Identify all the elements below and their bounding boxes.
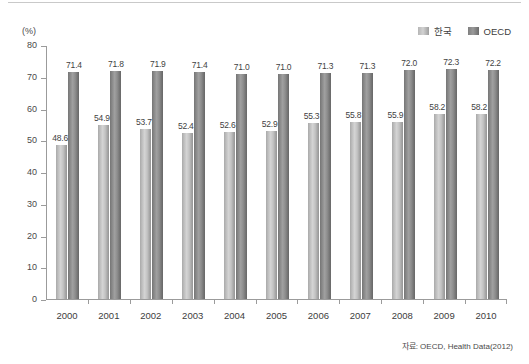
bar-korea: 58.2	[476, 114, 487, 299]
bar-korea: 55.9	[392, 122, 403, 299]
y-axis-tick-label: 40	[27, 167, 37, 177]
x-axis-tick-mark	[297, 300, 298, 304]
bar-value-label: 52.6	[220, 120, 236, 130]
y-axis-unit-label: (%)	[22, 26, 36, 36]
y-axis-tick-mark	[41, 205, 46, 206]
bar-oecd: 71.0	[278, 74, 289, 299]
bar-korea: 53.7	[140, 129, 151, 299]
bar-value-label: 71.4	[66, 60, 82, 70]
top-divider	[8, 2, 521, 3]
y-axis-tick-label: 50	[27, 135, 37, 145]
bar-value-label: 52.4	[178, 121, 194, 131]
bar-korea: 58.2	[434, 114, 445, 299]
bar-value-label: 53.7	[136, 117, 152, 127]
bar-oecd: 72.0	[404, 70, 415, 299]
bar-korea: 52.6	[224, 132, 235, 299]
bar-korea: 55.3	[308, 123, 319, 299]
y-axis-tick-mark	[41, 110, 46, 111]
x-axis-tick-mark	[172, 300, 173, 304]
x-axis-tick-label: 2010	[475, 310, 496, 321]
legend-item-oecd: OECD	[468, 26, 511, 37]
x-axis-line	[46, 299, 507, 300]
bar-oecd: 71.4	[68, 72, 79, 299]
x-axis-tick-mark	[130, 300, 131, 304]
bar-value-label: 71.0	[234, 62, 250, 72]
bar-oecd: 71.8	[110, 71, 121, 299]
bar-group: 54.971.8	[98, 46, 121, 299]
bar-korea: 52.4	[182, 133, 193, 299]
x-axis-tick-mark	[423, 300, 424, 304]
x-axis-tick-mark	[465, 300, 466, 304]
x-axis-tick-label: 2000	[56, 310, 77, 321]
bar-value-label: 72.2	[485, 58, 501, 68]
x-axis-tick-label: 2003	[182, 310, 203, 321]
y-axis-tick-label: 20	[27, 231, 37, 241]
bar-oecd: 72.3	[446, 69, 457, 299]
bar-value-label: 71.4	[192, 60, 208, 70]
y-axis-tick-mark	[41, 46, 46, 47]
bar-oecd: 71.9	[152, 71, 163, 299]
bar-value-label: 72.0	[401, 58, 417, 68]
bar-korea: 48.6	[56, 145, 67, 299]
x-axis-tick-label: 2002	[140, 310, 161, 321]
bar-oecd: 71.0	[236, 74, 247, 299]
bar-oecd: 72.2	[488, 70, 499, 299]
bar-value-label: 71.9	[150, 59, 166, 69]
y-axis-tick-mark	[41, 78, 46, 79]
bar-korea: 54.9	[98, 125, 109, 299]
bar-value-label: 54.9	[94, 113, 110, 123]
bar-value-label: 48.6	[52, 133, 68, 143]
bar-group: 58.272.2	[476, 46, 499, 299]
bar-korea: 52.9	[266, 131, 277, 299]
y-axis-tick-label: 80	[27, 40, 37, 50]
y-axis-tick-label: 30	[27, 199, 37, 209]
bar-value-label: 71.3	[318, 61, 334, 71]
x-axis-tick-mark	[88, 300, 89, 304]
x-axis-tick-label: 2009	[434, 310, 455, 321]
bar-oecd: 71.3	[320, 73, 331, 299]
y-axis-tick-label: 70	[27, 72, 37, 82]
bar-group: 52.971.0	[266, 46, 289, 299]
x-axis-tick-label: 2004	[224, 310, 245, 321]
legend-swatch-oecd-icon	[468, 27, 479, 35]
bar-group: 55.871.3	[350, 46, 373, 299]
source-note: 자료: OECD, Health Data(2012)	[402, 340, 513, 351]
bar-value-label: 71.3	[359, 61, 375, 71]
bar-oecd: 71.4	[194, 72, 205, 299]
y-axis-tick-mark	[41, 300, 46, 301]
x-axis-tick-label: 2001	[98, 310, 119, 321]
bar-groups: 48.671.454.971.853.771.952.471.452.671.0…	[47, 46, 507, 299]
y-axis-tick-label: 10	[27, 262, 37, 272]
legend-item-korea: 한국	[418, 24, 452, 38]
bar-oecd: 71.3	[362, 73, 373, 299]
x-axis-tick-mark	[256, 300, 257, 304]
bar-value-label: 72.3	[443, 57, 459, 67]
x-axis-tick-mark	[381, 300, 382, 304]
bar-korea: 55.8	[350, 122, 361, 299]
bar-value-label: 52.9	[262, 119, 278, 129]
bar-group: 48.671.4	[56, 46, 79, 299]
bar-value-label: 55.3	[304, 111, 320, 121]
legend-swatch-korea-icon	[418, 27, 429, 35]
bar-group: 55.972.0	[392, 46, 415, 299]
x-axis-tick-label: 2007	[350, 310, 371, 321]
x-axis-tick-label: 2005	[266, 310, 287, 321]
bar-group: 52.671.0	[224, 46, 247, 299]
bar-value-label: 58.2	[429, 102, 445, 112]
x-axis-tick-mark	[339, 300, 340, 304]
x-axis-tick-label: 2008	[392, 310, 413, 321]
bar-value-label: 71.0	[276, 62, 292, 72]
chart-figure: (%) 한국 OECD 01020304050607080 48.671.454…	[0, 0, 529, 364]
bar-value-label: 58.2	[471, 102, 487, 112]
y-axis-tick-mark	[41, 268, 46, 269]
y-axis-tick-mark	[41, 173, 46, 174]
bar-group: 55.371.3	[308, 46, 331, 299]
chart-legend: 한국 OECD	[418, 24, 511, 38]
plot-area: 01020304050607080 48.671.454.971.853.771…	[46, 46, 507, 300]
bar-group: 52.471.4	[182, 46, 205, 299]
bar-value-label: 55.9	[387, 110, 403, 120]
bar-value-label: 71.8	[108, 59, 124, 69]
x-axis-tick-mark	[214, 300, 215, 304]
bar-group: 53.771.9	[140, 46, 163, 299]
y-axis-tick-mark	[41, 237, 46, 238]
